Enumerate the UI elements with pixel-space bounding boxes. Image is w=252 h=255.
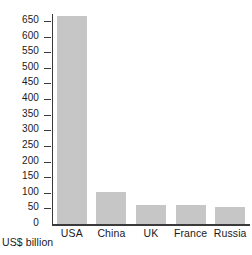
y-axis-tick-mark xyxy=(44,21,51,22)
bar-france xyxy=(176,205,206,224)
y-axis-tick-label: 100 xyxy=(22,186,39,197)
category-label-russia: Russia xyxy=(210,227,250,239)
y-axis-tick-label: 200 xyxy=(22,155,39,166)
y-axis-tick-label: 500 xyxy=(22,61,39,72)
y-axis-tick-label: 50 xyxy=(28,201,39,212)
x-axis-title: US$ billion xyxy=(2,236,53,248)
y-axis-tick-label: 550 xyxy=(22,45,39,56)
y-axis-tick-label: 350 xyxy=(22,108,39,119)
y-axis-tick-label: 300 xyxy=(22,123,39,134)
x-axis-line xyxy=(52,224,250,226)
bar-usa xyxy=(57,16,87,224)
y-axis-tick-label: 650 xyxy=(22,14,39,25)
y-axis-tick-label: 400 xyxy=(22,92,39,103)
y-axis-line xyxy=(52,14,53,225)
y-axis-tick-label: 0 xyxy=(33,217,39,228)
y-axis-tick-mark xyxy=(44,83,51,84)
y-axis-tick-label: 450 xyxy=(22,76,39,87)
y-axis-tick-mark xyxy=(44,99,51,100)
category-label-china: China xyxy=(92,227,132,239)
y-axis-tick-mark xyxy=(44,37,51,38)
y-axis-tick-mark xyxy=(44,208,51,209)
y-axis-tick-mark xyxy=(44,146,51,147)
y-axis-tick-label: 250 xyxy=(22,139,39,150)
y-axis-tick-label: 150 xyxy=(22,170,39,181)
y-axis-tick-mark xyxy=(44,115,51,116)
y-axis-tick-label: 600 xyxy=(22,30,39,41)
category-label-france: France xyxy=(171,227,211,239)
y-axis-tick-mark xyxy=(44,177,51,178)
y-axis-tick-mark xyxy=(44,162,51,163)
bar-chart: 050100150200250300350400450500550600650 … xyxy=(0,0,252,255)
bar-china xyxy=(96,192,126,224)
category-label-uk: UK xyxy=(131,227,171,239)
y-axis-tick-mark xyxy=(44,193,51,194)
category-label-usa: USA xyxy=(52,227,92,239)
y-axis-tick-mark xyxy=(44,68,51,69)
y-axis-tick-mark xyxy=(44,130,51,131)
bar-uk xyxy=(136,205,166,224)
y-axis-tick-mark xyxy=(44,52,51,53)
bar-russia xyxy=(215,207,245,224)
